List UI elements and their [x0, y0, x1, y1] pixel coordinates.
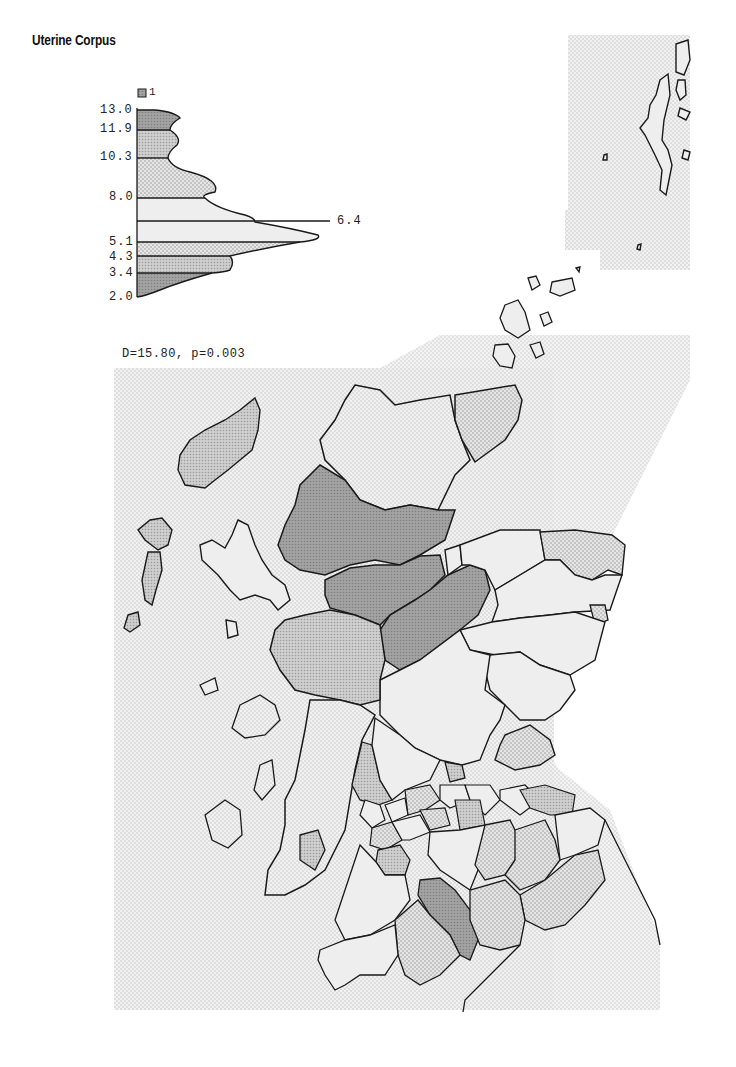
- tick-label-13.0: 13.0: [100, 103, 133, 117]
- legend-swatch: [138, 89, 146, 97]
- tick-label-8.0: 8.0: [109, 190, 134, 204]
- tick-label-4.3: 4.3: [109, 250, 134, 264]
- reference-value-label: 6.4: [337, 214, 362, 228]
- tick-label-3.4: 3.4: [109, 266, 134, 280]
- tick-label-5.1: 5.1: [109, 235, 134, 249]
- tick-label-11.9: 11.9: [100, 122, 133, 136]
- legend-swatch-label: 1: [149, 86, 156, 98]
- tick-label-2.0: 2.0: [109, 290, 134, 304]
- tick-label-10.3: 10.3: [100, 150, 133, 164]
- legend-histogram: [137, 89, 330, 297]
